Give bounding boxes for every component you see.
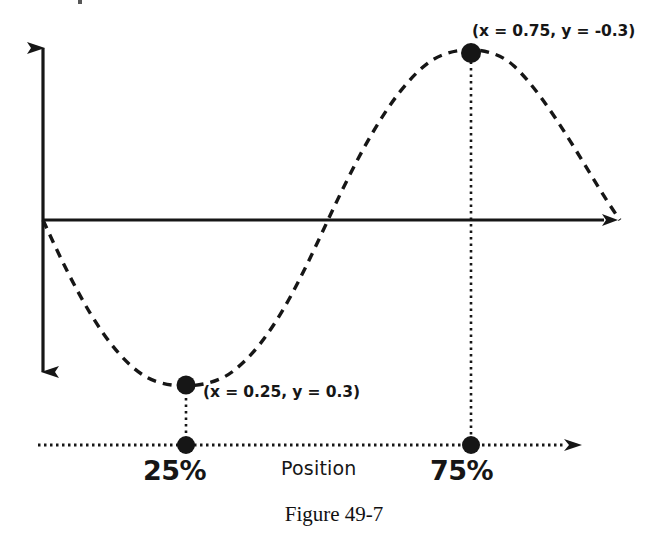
axis-point-75 — [462, 436, 480, 454]
x-axis-title: Position — [281, 457, 357, 479]
peak-coordinate-label: (x = 0.75, y = -0.3) — [472, 22, 635, 40]
trough-coordinate-label: (x = 0.25, y = 0.3) — [203, 383, 360, 401]
axis-point-25 — [177, 436, 195, 454]
crop-artifact — [78, 0, 82, 4]
figure-caption: Figure 49-7 — [0, 502, 668, 527]
data-point-trough — [177, 376, 196, 395]
x-tick-label-75: 75% — [430, 455, 493, 486]
figure-container: (x = 0.75, y = -0.3) (x = 0.25, y = 0.3)… — [0, 0, 668, 538]
sine-curve — [43, 50, 620, 386]
data-point-peak — [461, 43, 481, 63]
x-tick-label-25: 25% — [143, 455, 206, 486]
